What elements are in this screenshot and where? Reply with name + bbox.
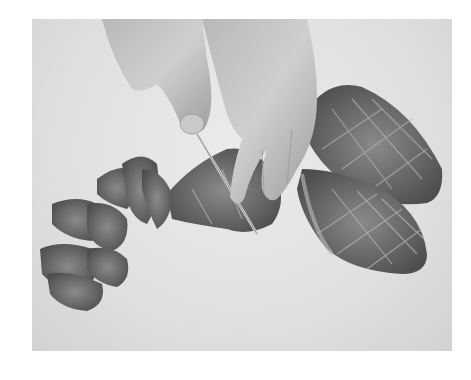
sliced-pieces: [40, 157, 172, 312]
photo: Hands slicing a scored, seared meat fill…: [32, 19, 452, 351]
left-hand: [102, 19, 211, 134]
scene-illustration: [32, 19, 452, 351]
